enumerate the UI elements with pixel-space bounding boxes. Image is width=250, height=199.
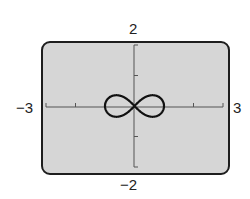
x-max-label: 3	[233, 100, 241, 115]
y-max-label: 2	[129, 21, 137, 36]
x-min-label: −3	[16, 100, 33, 115]
y-min-label: −2	[120, 177, 137, 192]
plot-area	[0, 0, 250, 199]
